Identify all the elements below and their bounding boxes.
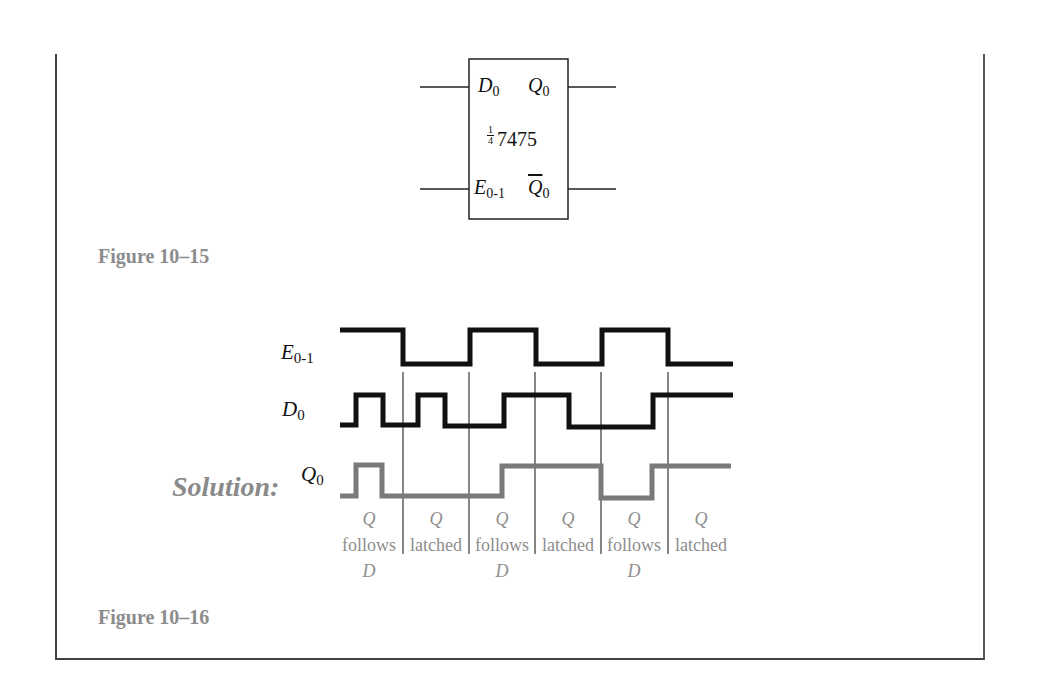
interval-annotation: QfollowsD [469,506,535,584]
pin-label-q0-bar: Q0 [528,176,549,202]
interval-annotation: QfollowsD [336,506,402,584]
interval-annotation: Qlatched [668,506,734,558]
d-input-waveform [340,395,733,427]
quarter-fraction: 14 [487,125,494,146]
part-number-label: 147475 [487,125,537,151]
enable-waveform [340,330,733,364]
interval-annotation: Qlatched [403,506,469,558]
pin-label-d0: D0 [478,74,499,100]
signal-label-q0: Q0 [301,462,324,489]
interval-annotation: Qlatched [535,506,601,558]
figure-caption-16: Figure 10–16 [98,606,209,629]
interval-annotation: QfollowsD [601,506,667,584]
pin-label-enable: E0-1 [474,176,505,202]
solution-label: Solution: [172,471,279,503]
diagram-canvas [0,0,1038,699]
pin-label-q0: Q0 [528,74,549,100]
signal-label-enable: E0-1 [281,340,314,367]
figure-caption-15: Figure 10–15 [98,245,209,268]
signal-label-d0: D0 [282,397,305,424]
